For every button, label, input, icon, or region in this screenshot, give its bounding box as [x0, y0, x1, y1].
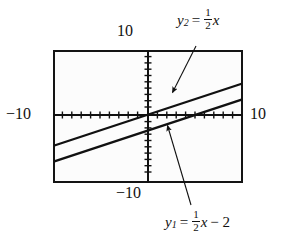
- equation-y1-numerator: 1: [192, 209, 200, 221]
- axis-label-y-max: 10: [117, 23, 133, 39]
- equation-y2-numerator: 1: [204, 7, 212, 19]
- plot-overlay: [0, 0, 290, 239]
- axis-label-x-min: −10: [6, 106, 31, 122]
- axis-label-y-min: −10: [116, 185, 141, 201]
- equation-y1-xterm: x: [201, 215, 208, 230]
- equation-y2-equals: =: [192, 13, 200, 28]
- equation-y2-fraction: 1 2: [204, 7, 212, 31]
- axis-label-x-max: 10: [250, 106, 266, 122]
- equation-y1-constant: − 2: [210, 215, 230, 230]
- equation-y2-variable: y: [177, 13, 184, 28]
- equation-y2-subscript: 2: [184, 18, 189, 28]
- equation-y1-fraction: 1 2: [192, 209, 200, 233]
- equation-y1-variable: y: [165, 215, 172, 230]
- line-y1: [54, 100, 242, 162]
- equation-label-y1: y1 = 1 2 x − 2: [165, 210, 233, 234]
- equation-y1-denominator: 2: [192, 222, 200, 234]
- callout-arrow-y2: [173, 46, 197, 93]
- equation-y2-xterm: x: [213, 13, 220, 28]
- linear-functions-figure: 10 −10 −10 10 y2 = 1 2 x y1 = 1 2 x − 2: [0, 0, 290, 239]
- equation-y2-denominator: 2: [204, 20, 212, 32]
- equation-label-y2: y2 = 1 2 x: [177, 8, 219, 32]
- callout-arrow-y1: [168, 126, 192, 206]
- equation-y1-equals: =: [180, 215, 188, 230]
- equation-y1-subscript: 1: [172, 220, 177, 230]
